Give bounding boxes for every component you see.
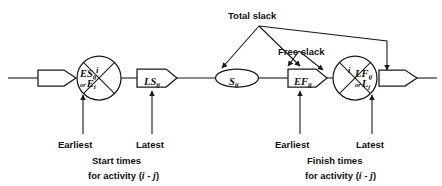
start-event-es-value: ESij orEi	[80, 69, 96, 89]
lf-subscript: ij	[368, 74, 372, 81]
ls-subscript: ij	[156, 81, 160, 89]
left-entry-arrow-shape	[8, 70, 76, 86]
right-activity-dash: -	[362, 170, 370, 181]
start-event-index-label: i	[96, 60, 99, 76]
e-alt-subscript: i	[94, 84, 96, 91]
right-earliest-label: Earliest	[275, 139, 309, 150]
s-subscript: ij	[235, 81, 239, 89]
right-activity-prefix: for activity (	[305, 170, 359, 181]
lf-or-word: or	[355, 82, 361, 89]
finish-event-index-label: i	[348, 60, 351, 76]
right-exit-arrow-shape	[379, 70, 437, 86]
diagram-vector-layer	[0, 0, 442, 186]
diagram-canvas: Total slack Free slack i ESij orEi i LFi…	[0, 0, 442, 186]
left-activity-prefix: for activity (	[88, 170, 142, 181]
free-slack-label: Free slack	[278, 46, 324, 57]
total-slack-label: Total slack	[228, 10, 276, 21]
left-activity-suffix: )	[156, 170, 159, 181]
left-start-times-label: Start times	[92, 155, 141, 166]
right-activity-label: for activity (i - j)	[305, 170, 376, 181]
finish-event-index-value: i	[348, 65, 351, 75]
l-alt-subscript: j	[368, 84, 370, 91]
left-activity-label: for activity (i - j)	[88, 170, 159, 181]
es-subscript: ij	[93, 74, 97, 81]
right-activity-suffix: )	[373, 170, 376, 181]
left-earliest-label: Earliest	[58, 139, 92, 150]
ef-subscript: ij	[308, 81, 312, 89]
right-latest-label: Latest	[356, 139, 384, 150]
start-event-index-value: i	[96, 65, 99, 75]
ef-box-label: EFij	[294, 72, 312, 88]
s-main-symbol: S	[229, 76, 235, 87]
finish-event-lf-value: LFij orLj	[355, 69, 372, 89]
es-or-word: or	[80, 82, 86, 89]
left-latest-label: Latest	[136, 139, 164, 150]
left-activity-dash: -	[145, 170, 153, 181]
right-finish-times-label: Finish times	[307, 155, 362, 166]
ls-box-label: LSij	[144, 72, 160, 88]
s-box-label: Sij	[229, 72, 238, 88]
ls-main-symbol: LS	[144, 76, 156, 87]
ef-main-symbol: EF	[294, 76, 308, 87]
